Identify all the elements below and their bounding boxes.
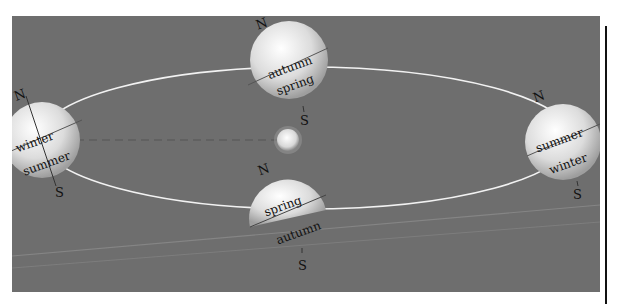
earth-top: N S autumn spring	[248, 15, 328, 128]
south-label: S	[573, 187, 582, 202]
earth-left: N S winter summer	[2, 86, 82, 200]
earth-bottom: N S spring autumn	[249, 160, 326, 273]
south-label: S	[300, 113, 309, 128]
season-label-lower: autumn	[274, 218, 323, 247]
sun-icon	[277, 129, 299, 151]
north-label: N	[531, 87, 547, 105]
south-label: S	[55, 185, 64, 200]
orbit-diagram: N S winter summer N S autumn spring N S …	[0, 0, 623, 304]
south-label: S	[298, 258, 307, 273]
north-label: N	[12, 86, 28, 104]
earth-right: N S summer winter	[525, 87, 601, 202]
north-label: N	[256, 160, 272, 178]
